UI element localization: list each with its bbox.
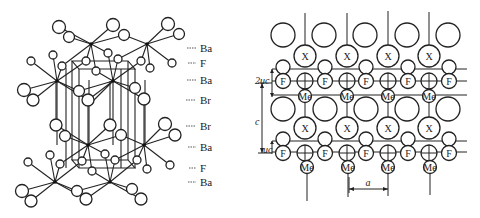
br-atom [53, 21, 66, 34]
f-atom-upper [401, 132, 415, 146]
f-label: F [322, 76, 328, 87]
f-atom-upper [442, 60, 456, 74]
br-atom [27, 94, 39, 106]
layer-2: X X X X F F F F F [271, 97, 460, 174]
left-structure-diagram: Ba F Ba Br Br Ba F Ba [16, 18, 213, 208]
me-label: Me [381, 91, 395, 102]
f-atom [146, 64, 154, 72]
me-label: Me [381, 162, 395, 173]
br-atom [169, 129, 181, 141]
f-atom-upper [359, 132, 373, 146]
f-label: F [363, 76, 369, 87]
f-atom [168, 59, 176, 67]
x-atom-plain [312, 23, 336, 47]
x-atom-plain [271, 97, 295, 121]
x-atom-plain [354, 97, 378, 121]
br-atom [25, 195, 37, 207]
br-atom [80, 193, 92, 205]
layer-label-ba: Ba [200, 42, 212, 54]
dimension-uc: uc [263, 144, 273, 155]
dimension-c: c [255, 116, 260, 127]
me-label: Me [298, 91, 312, 102]
f-atom-upper [442, 132, 456, 146]
bonds-bottom [22, 124, 175, 201]
f-label: F [280, 148, 286, 159]
br-atom [174, 29, 185, 40]
x-label: X [301, 51, 309, 62]
dimension-a: a [366, 177, 371, 188]
layer-label-ba: Ba [200, 141, 212, 153]
f-atom [137, 57, 145, 65]
right-structure-diagram: X X X X F F F F F [255, 11, 467, 201]
layer-label-br: Br [200, 94, 211, 106]
br-atom [64, 32, 75, 43]
layer-1: X X X X F F F F F [271, 23, 460, 103]
crystal-structure-figure: Ba F Ba Br Br Ba F Ba [0, 0, 480, 218]
br-atom [60, 131, 71, 142]
x-label: X [343, 123, 351, 134]
x-atom-plain [353, 23, 377, 47]
me-label: Me [423, 162, 437, 173]
br-atom [162, 18, 175, 31]
x-label: X [301, 123, 309, 134]
br-atom [82, 94, 94, 106]
x-label: X [343, 51, 351, 62]
me-label: Me [341, 162, 355, 173]
f-atom [46, 151, 54, 159]
f-atom-upper [276, 60, 290, 74]
layer-label-f: F [200, 57, 206, 69]
f-atom [143, 165, 151, 173]
f-label: F [446, 76, 452, 87]
f-atom [82, 57, 90, 65]
f-atom [88, 167, 96, 175]
f-atom-upper [359, 60, 373, 74]
x-label: X [384, 51, 392, 62]
f-atom [101, 150, 109, 158]
me-label: Me [422, 91, 436, 102]
br-atom [104, 119, 116, 131]
br-atom [16, 185, 29, 198]
br-atom [138, 93, 150, 105]
x-atom-plain [395, 97, 419, 121]
layer-labels: Ba F Ba Br Br Ba F Ba [186, 42, 212, 188]
f-atom-upper [318, 60, 332, 74]
f-atom [111, 156, 119, 164]
f-atom-upper [276, 132, 290, 146]
f-atom [58, 62, 66, 70]
me-label: Me [340, 91, 354, 102]
br-atom [130, 83, 141, 94]
f-label: F [405, 76, 411, 87]
f-atom-upper [401, 60, 415, 74]
br-atom [135, 193, 147, 205]
bonds-top [24, 24, 179, 105]
br-atom [107, 19, 120, 32]
br-atom [159, 118, 172, 131]
f-atom [104, 49, 112, 57]
x-atom-plain [271, 23, 295, 47]
f-label: F [446, 148, 452, 159]
f-atom-upper [318, 132, 332, 146]
me-label: Me [300, 162, 314, 173]
x-atom-plain [313, 97, 337, 121]
br-atom [119, 30, 130, 41]
layer-label-ba: Ba [200, 74, 212, 86]
f-atom [114, 55, 122, 63]
f-atom [27, 57, 35, 65]
layer-label-ba: Ba [200, 176, 212, 188]
f-atom [24, 158, 32, 166]
x-label: X [425, 51, 433, 62]
f-atom [92, 67, 100, 75]
x-atom-plain [395, 23, 419, 47]
br-atom [127, 184, 138, 195]
x-label: X [384, 123, 392, 134]
f-label: F [280, 76, 286, 87]
f-label: F [363, 148, 369, 159]
f-atom [166, 161, 174, 169]
f-atom [133, 156, 141, 164]
x-atom-plain [436, 23, 460, 47]
layer-label-f: F [200, 162, 206, 174]
br-atom [50, 119, 62, 131]
layer-label-br: Br [200, 120, 211, 132]
f-label: F [405, 148, 411, 159]
br-atom [18, 84, 31, 97]
